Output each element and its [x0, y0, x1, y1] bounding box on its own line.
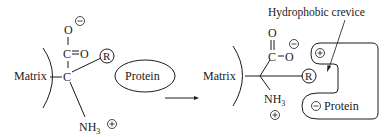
amine-label-right: NH3 — [264, 92, 285, 108]
hydrophobic-crevice-label: Hydrophobic crevice — [268, 6, 365, 19]
right-scheme: Matrix C O O NH3 R Protein Hydrophobic c… — [203, 6, 378, 120]
matrix-label-right: Matrix — [203, 69, 236, 83]
carboxyl-oxygen-single-right: O — [285, 50, 294, 64]
carboxyl-carbon: C — [63, 47, 71, 61]
reaction-arrow — [165, 96, 199, 100]
amine-bond — [70, 82, 85, 117]
pointer-arrowhead-icon — [327, 65, 331, 72]
r-group-label-right: R — [305, 70, 313, 82]
carboxyl-carbon-right: C — [268, 50, 276, 64]
hydrophobic-interaction-diagram: Matrix C O C O R NH3 Protein Matrix — [0, 0, 392, 137]
carboxyl-oxygen-double-right: O — [268, 26, 277, 40]
matrix-label-left: Matrix — [14, 69, 47, 83]
r-group-label: R — [103, 50, 111, 62]
protein-label-left: Protein — [125, 69, 160, 83]
carboxyl-oxygen-top: O — [64, 23, 73, 37]
annotation-pointer — [329, 20, 345, 68]
left-scheme: Matrix C O C O R NH3 Protein — [14, 17, 175, 137]
alpha-carbon: C — [63, 70, 71, 84]
arrow-head-icon — [194, 96, 199, 100]
carboxyl-oxygen-double: O — [80, 47, 89, 61]
amine-label: NH3 — [79, 120, 100, 136]
protein-label-right: Protein — [324, 99, 359, 113]
